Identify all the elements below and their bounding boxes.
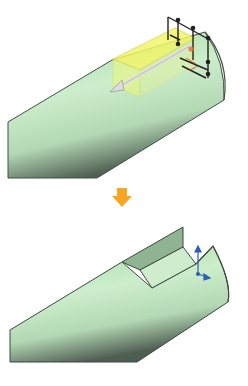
cylinder-with-slot — [0, 210, 248, 386]
cylinder-with-preview — [0, 0, 248, 186]
down-arrow-icon — [0, 186, 248, 210]
after-view: Cylinder with slot cut — [0, 210, 248, 386]
transition-arrow-area — [0, 186, 248, 210]
before-view: Cylinder with cut-extrude preview — [0, 0, 248, 186]
